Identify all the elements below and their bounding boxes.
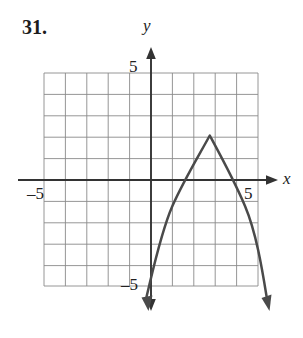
curve-right-arrow-icon (262, 295, 272, 312)
y-axis (146, 47, 156, 311)
problem-number: 31. (22, 17, 47, 37)
y-axis-label: y (143, 17, 151, 34)
coordinate-plane-svg (0, 0, 303, 338)
graph-figure: 31. (0, 0, 303, 338)
x-axis-label: x (283, 170, 291, 187)
x-axis (18, 175, 278, 185)
tick-label-y-negative-5: –5 (121, 276, 138, 293)
tick-label-x-negative-5: –5 (27, 185, 44, 202)
tick-label-y-5: 5 (129, 58, 138, 75)
y-axis-arrow-up-icon (146, 47, 156, 59)
tick-label-x-5: 5 (244, 185, 253, 202)
x-axis-arrow-icon (266, 175, 278, 185)
